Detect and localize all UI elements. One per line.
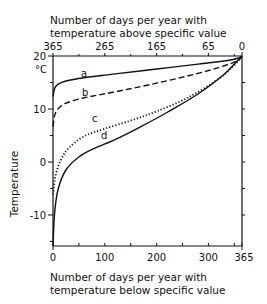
top-tick-265: 265 bbox=[95, 41, 114, 52]
top-tick-165: 165 bbox=[147, 41, 166, 52]
temperature-duration-chart: Number of days per year with temperature… bbox=[0, 0, 267, 304]
top-tick-65: 65 bbox=[202, 41, 215, 52]
x-tick-200: 200 bbox=[147, 252, 166, 263]
x-tick-0: 0 bbox=[50, 252, 56, 263]
top-axis-title-line2: temperature above specific value bbox=[50, 27, 227, 39]
y-tick-minus10: -10 bbox=[30, 210, 46, 221]
x-tick-100: 100 bbox=[95, 252, 114, 263]
x-tick-300: 300 bbox=[199, 252, 218, 263]
curve-label-c: c bbox=[92, 113, 98, 124]
curve-label-a: a bbox=[81, 68, 87, 79]
top-axis-title-line1: Number of days per year with bbox=[50, 14, 207, 26]
y-axis-title: Temperature bbox=[8, 151, 20, 219]
curve-label-d: d bbox=[101, 130, 107, 141]
y-unit-label: °C bbox=[35, 64, 47, 75]
y-axis-ticks bbox=[48, 56, 53, 242]
x-axis-title-line2: temperature below specific value bbox=[50, 284, 225, 296]
top-tick-365: 365 bbox=[43, 41, 62, 52]
curves-group bbox=[53, 56, 242, 246]
y-tick-20: 20 bbox=[33, 51, 46, 62]
top-tick-0: 0 bbox=[239, 41, 245, 52]
y-tick-10: 10 bbox=[33, 104, 46, 115]
y-tick-0: 0 bbox=[40, 157, 46, 168]
x-axis-title-line1: Number of days per year with bbox=[50, 271, 207, 283]
curve-label-b: b bbox=[82, 87, 88, 98]
x-tick-365: 365 bbox=[234, 252, 253, 263]
